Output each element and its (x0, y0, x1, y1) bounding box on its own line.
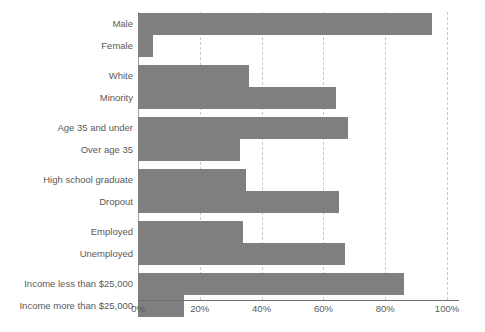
tick-label-100pct: 100% (435, 303, 459, 314)
tick-label-0pct: 0% (131, 303, 145, 314)
bar-row (138, 273, 447, 295)
bar (138, 35, 153, 57)
bar-row (138, 243, 447, 265)
category-label: Male (1, 13, 133, 35)
category-label: Income less than $25,000 (1, 273, 133, 295)
bar-row (138, 221, 447, 243)
bar-row (138, 13, 447, 35)
tick-label-40pct: 40% (252, 303, 271, 314)
bar (138, 117, 348, 139)
category-label: Over age 35 (1, 139, 133, 161)
x-axis-line (138, 300, 459, 301)
horizontal-bar-chart: MaleFemaleWhiteMinorityAge 35 and underO… (0, 0, 485, 332)
bar (138, 65, 249, 87)
gridline-100pct (447, 12, 448, 300)
tick-label-60pct: 60% (314, 303, 333, 314)
category-labels-column: MaleFemaleWhiteMinorityAge 35 and underO… (0, 12, 133, 300)
bar (138, 139, 240, 161)
tick-label-20pct: 20% (190, 303, 209, 314)
category-label: Minority (1, 87, 133, 109)
plot-area (138, 12, 447, 300)
category-label: Unemployed (1, 243, 133, 265)
bar (138, 221, 243, 243)
bar-row (138, 35, 447, 57)
category-label: Age 35 and under (1, 117, 133, 139)
category-label: White (1, 65, 133, 87)
category-label: High school graduate (1, 169, 133, 191)
bar (138, 243, 345, 265)
bar-row (138, 169, 447, 191)
bar (138, 273, 404, 295)
bar (138, 87, 336, 109)
bar (138, 169, 246, 191)
bar-row (138, 87, 447, 109)
category-label: Employed (1, 221, 133, 243)
category-label: Female (1, 35, 133, 57)
bar-row (138, 191, 447, 213)
bar-row (138, 65, 447, 87)
tick-label-80pct: 80% (376, 303, 395, 314)
bar (138, 13, 432, 35)
bar-row (138, 139, 447, 161)
x-axis-tick-labels: 0%20%40%60%80%100% (0, 303, 485, 323)
bar (138, 191, 339, 213)
bar-row (138, 117, 447, 139)
category-label: Dropout (1, 191, 133, 213)
